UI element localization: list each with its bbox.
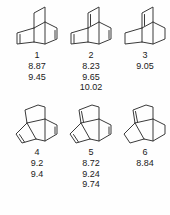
- ionization-value: 10.02: [80, 82, 103, 93]
- compound-caption-5: 5 8.72 9.24 9.74: [82, 147, 100, 190]
- ionization-values-6: 8.84: [136, 158, 154, 169]
- compound-caption-4: 4 9.2 9.4: [31, 147, 44, 179]
- structure-diagram-3: [120, 4, 170, 49]
- compound-number-5: 5: [82, 147, 100, 157]
- ionization-value: 8.72: [82, 158, 100, 169]
- compound-number-1: 1: [28, 50, 46, 60]
- structure-row-bottom: 4 9.2 9.4: [0, 101, 170, 190]
- ionization-values-1: 8.87 9.45: [28, 61, 46, 82]
- compound-cell-6: 6 8.84: [120, 101, 170, 190]
- structure-diagram-1: [12, 4, 62, 49]
- structure-diagram-6: [120, 101, 170, 146]
- compound-cell-2: 2 8.23 9.65 10.02: [66, 4, 116, 93]
- compound-cell-4: 4 9.2 9.4: [12, 101, 62, 190]
- ionization-value: 8.87: [28, 61, 46, 72]
- ionization-value: 9.24: [82, 169, 100, 180]
- ionization-values-3: 9.05: [136, 61, 154, 72]
- ionization-values-5: 8.72 9.24 9.74: [82, 158, 100, 190]
- compound-caption-1: 1 8.87 9.45: [28, 50, 46, 82]
- ionization-values-4: 9.2 9.4: [31, 158, 44, 179]
- ionization-value: 9.45: [28, 72, 46, 83]
- compound-cell-5: 5 8.72 9.24 9.74: [66, 101, 116, 190]
- compound-caption-3: 3 9.05: [136, 50, 154, 72]
- compound-cell-1: 1 8.87 9.45: [12, 4, 62, 93]
- ionization-value: 9.65: [80, 72, 103, 83]
- structure-row-top: 1 8.87 9.45: [0, 4, 170, 93]
- ionization-value: 8.23: [80, 61, 103, 72]
- ionization-value: 9.4: [31, 169, 44, 180]
- compound-cell-3: 3 9.05: [120, 4, 170, 93]
- ionization-value: 9.2: [31, 158, 44, 169]
- structure-diagram-4: [12, 101, 62, 146]
- ionization-values-2: 8.23 9.65 10.02: [80, 61, 103, 93]
- compound-number-3: 3: [136, 50, 154, 60]
- ionization-value: 8.84: [136, 158, 154, 169]
- compound-caption-2: 2 8.23 9.65 10.02: [80, 50, 103, 93]
- compound-number-2: 2: [80, 50, 103, 60]
- structure-diagram-5: [66, 101, 116, 146]
- chemical-structures-figure: 1 8.87 9.45: [0, 0, 170, 215]
- compound-number-4: 4: [31, 147, 44, 157]
- ionization-value: 9.74: [82, 179, 100, 190]
- compound-caption-6: 6 8.84: [136, 147, 154, 169]
- structure-diagram-2: [66, 4, 116, 49]
- ionization-value: 9.05: [136, 61, 154, 72]
- compound-number-6: 6: [136, 147, 154, 157]
